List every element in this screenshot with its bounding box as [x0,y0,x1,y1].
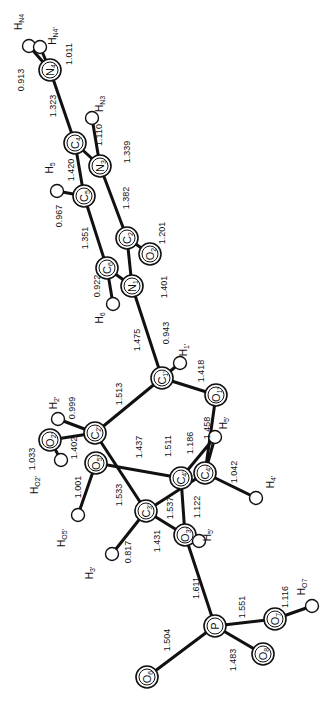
hydrogen-circle-icon [72,509,85,522]
bond-length-label: 1.504 [162,629,172,652]
atom-C5: C5 [73,185,95,207]
bond-length-label: 1.402 [69,437,79,460]
hydrogen-subscript: O7 [301,579,308,588]
hydrogen-subscript: 5' [223,417,230,422]
atom-HN4: HN4 [13,14,36,53]
hydrogen-subscript: N4 [18,14,25,23]
bond-C1p-C2p [95,378,162,433]
hydrogen-circle-icon [34,41,47,54]
hydrogen-subscript: N4' [52,27,59,37]
atom-subscript: 5' [96,456,103,461]
hydrogen-label: HO2' [29,476,41,494]
bond-length-label: 1.437 [134,436,144,459]
hydrogen-label: HN3 [94,96,106,112]
atom-H3p: H3' [84,548,119,580]
bond-length-label: 1.339 [122,141,132,164]
hydrogen-subscript: 4' [270,476,277,481]
atom-O1p: O1' [205,384,227,406]
molecule-diagram: HN4HN4'N4HN3C4N3H5C5C2O2C6N1H6C1'H1'O1'H… [0,0,333,701]
atom-subscript: 2' [50,433,57,438]
bond-length-label: 1.201 [157,222,167,245]
atom-H1p: H1' [174,344,191,370]
atom-C4: C4 [64,132,86,154]
hydrogen-circle-icon [51,185,64,198]
bond-length-label: 1.511 [163,435,173,457]
hydrogen-subscript: 5 [49,162,56,166]
atom-C2: C2 [116,227,138,249]
hydrogen-circle-icon [107,298,120,311]
hydrogen-label: HN4 [13,14,25,30]
bond-length-label: 1.116 [280,586,290,608]
atom-subscript: 6 [107,262,114,266]
hydrogen-label: HO7 [296,579,308,596]
bond-length-label: 1.033 [27,448,37,471]
bond-length-label: 1.551 [237,596,247,619]
atom-N1: N1 [121,275,143,297]
bond-length-label: 1.401 [159,276,169,299]
atom-subscript: 8 [263,648,270,652]
hydrogen-circle-icon [250,492,263,505]
hydrogen-label: HO5' [56,529,68,547]
atom-P: P [204,615,226,637]
atom-subscript: 2' [95,426,102,431]
atom-subscript: 1' [216,388,223,393]
atom-C3p: C3' [135,500,157,522]
bond-length-label: 0.817 [123,541,133,564]
bond-length-label: 1.110 [94,124,104,146]
atom-subscript: 7 [275,613,282,617]
hydrogen-label: H5' [202,529,214,541]
hydrogen-circle-icon [106,548,119,561]
atoms-layer: HN4HN4'N4HN3C4N3H5C5C2O2C6N1H6C1'H1'O1'H… [13,14,319,688]
atom-subscript: 4' [181,471,188,476]
bond-C4pL-O5p [96,463,181,478]
hydrogen-label: H4' [265,476,277,488]
atom-H6: H6 [94,298,120,324]
atom-H4p: H4' [250,476,278,505]
atom-subscript: 4 [50,64,57,68]
atom-subscript: 4' [205,466,212,471]
bond-length-label: 1.513 [114,383,124,406]
atom-HO5p: HO5' [56,509,85,547]
hydrogen-circle-icon [174,357,187,370]
hydrogen-subscript: N3 [99,96,106,105]
atom-C2p: C2' [84,422,106,444]
atom-O6: O6 [136,666,158,688]
atom-O2p: O2' [39,429,61,451]
bond-length-label: 1.186 [185,432,195,455]
atom-C4pL: C4' [170,467,192,489]
bond-length-label: 0.999 [67,397,77,420]
bond-length-label: 1.537 [165,497,175,520]
bond-length-label: 1.611 [191,577,201,599]
hydrogen-subscript: 3' [89,567,96,572]
hydrogen-label: H2' [48,397,60,409]
hydrogen-subscript: 2' [53,397,60,402]
atom-subscript: 4 [75,137,82,141]
hydrogen-subscript: O2' [34,476,41,487]
hydrogen-circle-icon [306,600,319,613]
atom-HN3: HN3 [86,96,107,125]
hydrogen-label: H3' [84,567,96,579]
atom-subscript: 5 [84,190,91,194]
atom-subscript: 3' [146,504,153,509]
atom-HO7: HO7 [296,579,319,613]
hydrogen-label: H5' [218,417,230,429]
hydrogen-subscript: O5' [61,529,68,540]
bond-length-label: 1.483 [228,649,238,672]
atom-label: P [209,622,221,629]
atom-subscript: 2 [127,232,134,236]
atom-subscript: 1' [162,371,169,376]
bond-length-label: 1.475 [132,329,142,352]
bond-length-label: 1.323 [48,95,58,118]
bond-length-label: 1.533 [114,484,124,507]
bond-length-label: 0.913 [16,69,26,92]
atom-subscript: 3' [185,528,192,533]
atom-C1p: C1' [151,367,173,389]
hydrogen-label: H1' [178,344,190,356]
hydrogen-circle-icon [86,112,99,125]
bond-length-label: 1.431 [152,530,162,553]
atom-N3: N3 [89,155,111,177]
atom-H2p: H2' [48,397,65,426]
hydrogen-label: H6 [94,312,106,323]
bond-length-label: 1.418 [196,360,206,383]
hydrogen-subscript: 5' [207,529,214,534]
